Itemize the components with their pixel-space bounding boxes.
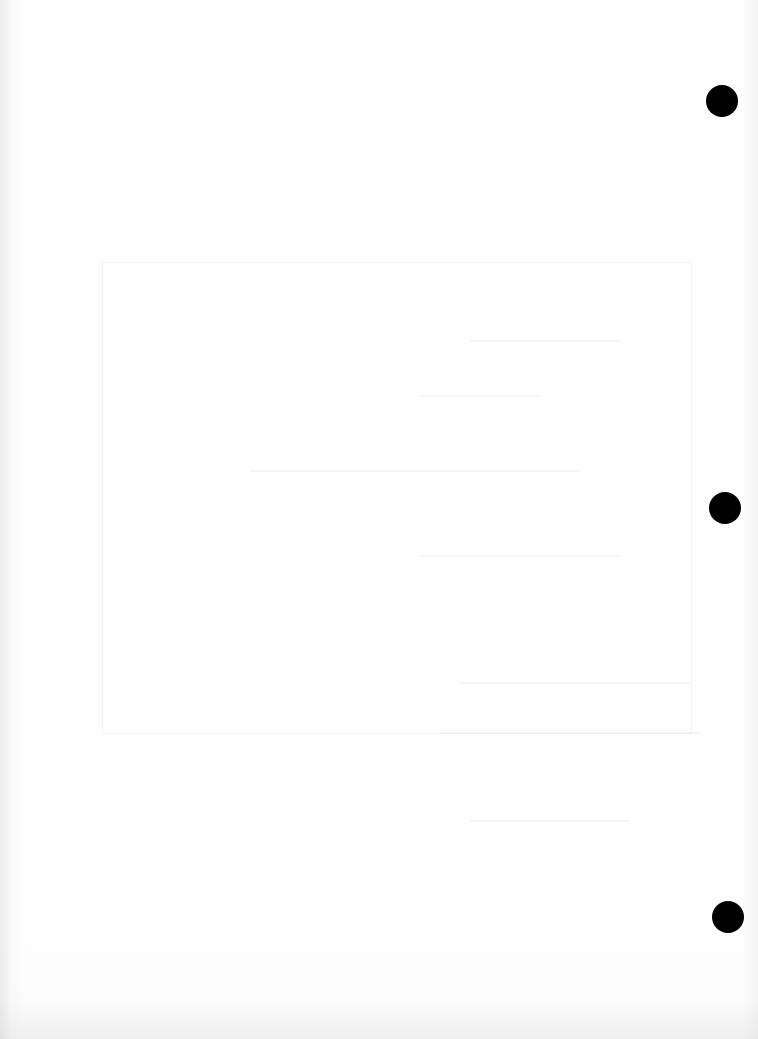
punch-hole-middle: [709, 492, 741, 524]
show-through-line: [460, 682, 690, 684]
show-through-line: [470, 340, 620, 342]
show-through-line: [420, 555, 620, 557]
punch-hole-top: [706, 85, 738, 117]
show-through-frame: [102, 262, 692, 734]
show-through-line: [440, 732, 700, 734]
scanned-page: [0, 0, 758, 1039]
show-through-line: [250, 470, 580, 472]
show-through-line: [470, 820, 630, 822]
show-through-line: [420, 395, 540, 397]
punch-hole-bottom: [712, 901, 744, 933]
